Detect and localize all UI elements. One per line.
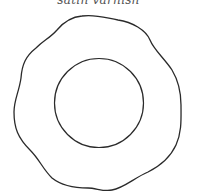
outer-wavy-rim (14, 15, 181, 190)
inner-circle (55, 59, 144, 148)
plate-diagram (0, 0, 197, 195)
